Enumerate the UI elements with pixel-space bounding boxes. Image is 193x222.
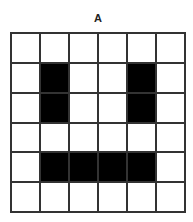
filled-cell-r4-c2 (69, 152, 98, 182)
empty-cell-r0-c3 (98, 33, 127, 63)
empty-cell-r3-c5 (156, 123, 185, 153)
empty-cell-r2-c5 (156, 93, 185, 123)
empty-cell-r4-c5 (156, 152, 185, 182)
empty-cell-r2-c2 (69, 93, 98, 123)
empty-cell-r2-c3 (98, 93, 127, 123)
empty-cell-r3-c1 (40, 123, 69, 153)
empty-cell-r1-c2 (69, 63, 98, 93)
filled-cell-r1-c1 (40, 63, 69, 93)
empty-cell-r0-c4 (127, 33, 156, 63)
empty-cell-r3-c4 (127, 123, 156, 153)
filled-cell-r4-c3 (98, 152, 127, 182)
empty-cell-r0-c2 (69, 33, 98, 63)
empty-cell-r5-c3 (98, 182, 127, 212)
filled-cell-r1-c4 (127, 63, 156, 93)
filled-cell-r2-c1 (40, 93, 69, 123)
grid-title: A (0, 12, 193, 24)
empty-cell-r1-c5 (156, 63, 185, 93)
pixel-grid (10, 32, 186, 213)
filled-cell-r4-c4 (127, 152, 156, 182)
empty-cell-r0-c5 (156, 33, 185, 63)
empty-cell-r0-c0 (11, 33, 40, 63)
filled-cell-r2-c4 (127, 93, 156, 123)
empty-cell-r5-c0 (11, 182, 40, 212)
empty-cell-r5-c5 (156, 182, 185, 212)
filled-cell-r4-c1 (40, 152, 69, 182)
empty-cell-r2-c0 (11, 93, 40, 123)
empty-cell-r3-c2 (69, 123, 98, 153)
empty-cell-r0-c1 (40, 33, 69, 63)
empty-cell-r5-c4 (127, 182, 156, 212)
empty-cell-r3-c3 (98, 123, 127, 153)
empty-cell-r5-c1 (40, 182, 69, 212)
empty-cell-r5-c2 (69, 182, 98, 212)
empty-cell-r3-c0 (11, 123, 40, 153)
empty-cell-r1-c3 (98, 63, 127, 93)
empty-cell-r1-c0 (11, 63, 40, 93)
empty-cell-r4-c0 (11, 152, 40, 182)
